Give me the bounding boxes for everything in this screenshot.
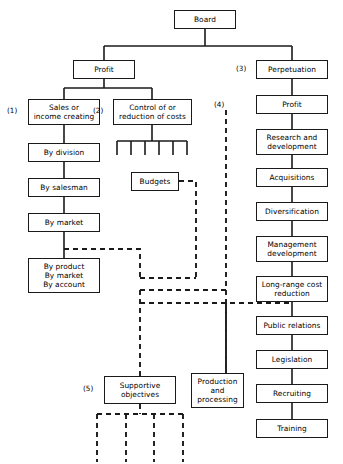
- node-control[interactable]: Control of or reduction of costs: [113, 99, 192, 125]
- node-label-long-range: Long-range cost reduction: [260, 280, 324, 298]
- node-label-control: Control of or reduction of costs: [117, 103, 188, 121]
- dashed-connector-budgets-out: [179, 181, 196, 278]
- node-acquisitions[interactable]: Acquisitions: [256, 168, 328, 187]
- node-label-budgets: Budgets: [138, 177, 173, 186]
- node-sales[interactable]: Sales or income creating: [28, 99, 100, 125]
- node-label-recruiting: Recruiting: [271, 389, 313, 398]
- node-label-by-salesman: By salesman: [38, 183, 90, 192]
- node-profit[interactable]: Profit: [73, 60, 135, 79]
- group-tag-5: (5): [83, 385, 93, 393]
- node-by-division[interactable]: By division: [28, 143, 100, 162]
- node-label-by-market: By market: [43, 218, 85, 227]
- node-label-sales: Sales or income creating: [32, 103, 97, 121]
- node-mgmt-dev[interactable]: Management development: [256, 236, 328, 262]
- node-diversification[interactable]: Diversification: [256, 202, 328, 221]
- org-chart-diagram: BoardProfitPerpetuationSales or income c…: [0, 0, 343, 464]
- node-supportive[interactable]: Supportive objectives: [104, 376, 176, 404]
- node-label-diversification: Diversification: [263, 207, 321, 216]
- node-label-mgmt-dev: Management development: [265, 240, 318, 258]
- node-board[interactable]: Board: [174, 10, 236, 29]
- group-tag-4: (4): [214, 101, 224, 109]
- node-profit2[interactable]: Profit: [256, 95, 328, 114]
- node-research[interactable]: Research and development: [256, 129, 328, 155]
- node-recruiting[interactable]: Recruiting: [256, 384, 328, 403]
- node-label-research: Research and development: [265, 133, 320, 151]
- node-label-supportive: Supportive objectives: [118, 381, 163, 399]
- node-label-profit2: Profit: [280, 100, 304, 109]
- node-label-training: Training: [275, 424, 309, 433]
- node-label-profit: Profit: [92, 65, 116, 74]
- node-by-product[interactable]: By product By market By account: [28, 258, 100, 293]
- node-public-rel[interactable]: Public relations: [256, 316, 328, 335]
- group-tag-2: (2): [93, 107, 103, 115]
- node-legislation[interactable]: Legislation: [256, 350, 328, 369]
- node-label-legislation: Legislation: [270, 355, 314, 364]
- node-by-market[interactable]: By market: [28, 213, 100, 232]
- node-label-board: Board: [192, 15, 218, 24]
- node-label-production: Production and processing: [195, 377, 239, 405]
- node-production[interactable]: Production and processing: [191, 373, 244, 408]
- group-tag-1: (1): [7, 107, 17, 115]
- node-perpetuation[interactable]: Perpetuation: [256, 60, 328, 79]
- node-training[interactable]: Training: [256, 419, 328, 438]
- node-by-salesman[interactable]: By salesman: [28, 178, 100, 197]
- node-budgets[interactable]: Budgets: [131, 172, 179, 191]
- group-tag-3: (3): [236, 65, 246, 73]
- node-label-perpetuation: Perpetuation: [266, 65, 318, 74]
- node-label-by-division: By division: [42, 148, 87, 157]
- node-label-by-product: By product By market By account: [41, 262, 87, 290]
- node-label-acquisitions: Acquisitions: [268, 173, 317, 182]
- node-long-range[interactable]: Long-range cost reduction: [256, 276, 328, 302]
- node-label-public-rel: Public relations: [261, 321, 322, 330]
